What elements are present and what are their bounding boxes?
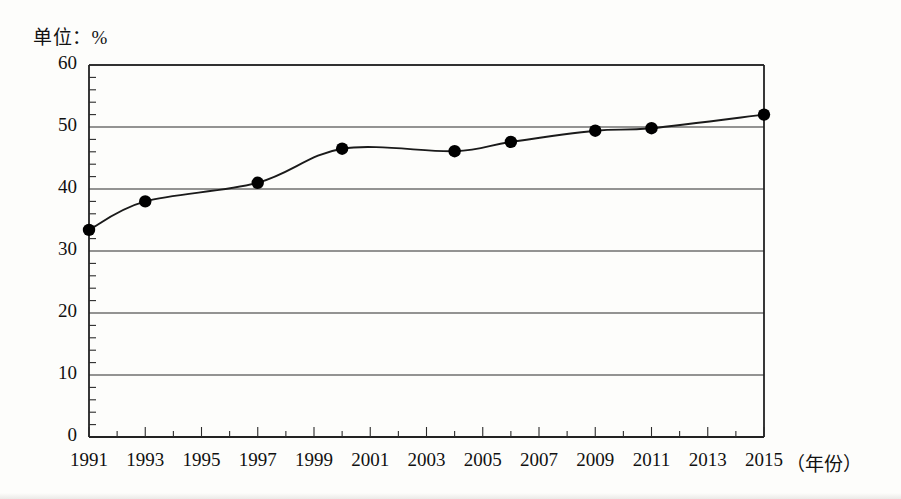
ytick-label: 60 <box>37 52 77 74</box>
data-point-marker <box>505 136 517 148</box>
ytick-label: 30 <box>37 238 77 260</box>
data-point-marker <box>645 122 657 134</box>
chart-svg <box>0 0 901 499</box>
data-point-marker <box>448 145 460 157</box>
xtick-label: 2015 <box>736 449 792 471</box>
xtick-label: 2005 <box>455 449 511 471</box>
xtick-label: 1999 <box>286 449 342 471</box>
data-point-marker <box>336 143 348 155</box>
data-point-marker <box>758 108 770 120</box>
xtick-label: 2011 <box>624 449 680 471</box>
ytick-label: 20 <box>37 300 77 322</box>
ytick-label: 0 <box>37 424 77 446</box>
series-line <box>89 115 764 230</box>
data-point-marker <box>589 125 601 137</box>
xaxis-title: （年份） <box>786 449 862 476</box>
xtick-label: 2007 <box>511 449 567 471</box>
xtick-label: 2003 <box>399 449 455 471</box>
xtick-label: 2001 <box>342 449 398 471</box>
ytick-label: 10 <box>37 362 77 384</box>
xtick-label: 1997 <box>230 449 286 471</box>
xtick-label: 2013 <box>680 449 736 471</box>
ytick-label: 50 <box>37 114 77 136</box>
xtick-label: 2009 <box>567 449 623 471</box>
xtick-label: 1995 <box>174 449 230 471</box>
data-point-marker <box>252 177 264 189</box>
xtick-label: 1993 <box>117 449 173 471</box>
line-chart <box>0 0 901 499</box>
data-point-marker <box>83 224 95 236</box>
xtick-label: 1991 <box>61 449 117 471</box>
ytick-label: 40 <box>37 176 77 198</box>
data-point-marker <box>139 195 151 207</box>
chart-page: 单位：% 01020304050601991199319951997199920… <box>0 0 901 499</box>
